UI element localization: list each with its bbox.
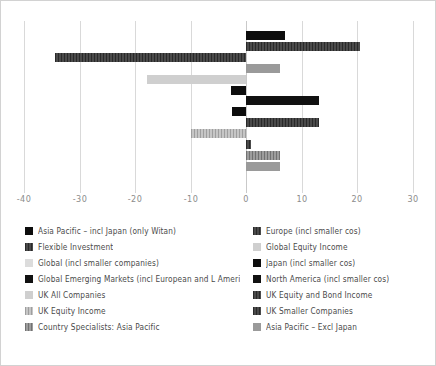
- legend-item-label: Asia Pacific – Excl Japan: [266, 322, 357, 332]
- legend-swatch-icon: [25, 227, 33, 235]
- bar: [246, 151, 279, 160]
- legend-item[interactable]: Global Equity Income: [253, 239, 436, 254]
- chart-legend: Asia Pacific – incl Japan (only Witan)Fl…: [1, 223, 436, 353]
- legend-swatch-icon: [25, 323, 33, 331]
- x-tick-label-10: 10: [282, 194, 322, 204]
- gridline--20: [135, 21, 136, 193]
- legend-item-label: UK Equity Income: [38, 306, 106, 316]
- gridline--10: [191, 21, 192, 193]
- legend-item[interactable]: Japan (incl smaller cos): [253, 255, 436, 270]
- legend-item[interactable]: North America (incl smaller cos): [253, 271, 436, 286]
- x-tick-label-0: 0: [226, 194, 266, 204]
- bar: [246, 118, 318, 127]
- x-tick-label-20: 20: [337, 194, 377, 204]
- bar: [246, 162, 279, 171]
- legend-swatch-icon: [25, 307, 33, 315]
- legend-item-label: Global (incl smaller companies): [38, 258, 159, 268]
- bar: [246, 64, 279, 73]
- legend-swatch-icon: [253, 323, 261, 331]
- legend-item[interactable]: Country Specialists: Asia Pacific: [25, 319, 240, 334]
- legend-item[interactable]: Global Emerging Markets (incl European a…: [25, 271, 240, 286]
- legend-item[interactable]: Asia Pacific – incl Japan (only Witan): [25, 223, 240, 238]
- legend-item[interactable]: Asia Pacific – Excl Japan: [253, 319, 436, 334]
- legend-swatch-icon: [25, 275, 33, 283]
- bar: [246, 31, 285, 40]
- legend-column-left: Asia Pacific – incl Japan (only Witan)Fl…: [25, 223, 240, 335]
- legend-swatch-icon: [25, 243, 33, 251]
- legend-swatch-icon: [253, 227, 261, 235]
- gridline-30: [413, 21, 414, 193]
- x-tick-label--10: -10: [171, 194, 211, 204]
- x-tick-label--30: -30: [60, 194, 100, 204]
- legend-item[interactable]: Europe (incl smaller cos): [253, 223, 436, 238]
- bar: [147, 75, 246, 84]
- x-tick-label--40: -40: [4, 194, 44, 204]
- legend-item-label: Europe (incl smaller cos): [266, 226, 361, 236]
- legend-swatch-icon: [253, 307, 261, 315]
- legend-item-label: Flexible Investment: [38, 242, 113, 252]
- legend-swatch-icon: [253, 291, 261, 299]
- bar: [55, 53, 247, 62]
- chart-card: -40-30-20-100102030 Asia Pacific – incl …: [0, 0, 436, 366]
- legend-item[interactable]: Flexible Investment: [25, 239, 240, 254]
- legend-item-label: Country Specialists: Asia Pacific: [38, 322, 160, 332]
- legend-item-label: UK All Companies: [38, 290, 106, 300]
- legend-swatch-icon: [25, 291, 33, 299]
- legend-column-right: Europe (incl smaller cos)Global Equity I…: [253, 223, 436, 335]
- gridline--40: [24, 21, 25, 193]
- legend-item-label: Asia Pacific – incl Japan (only Witan): [38, 226, 176, 236]
- gridline--30: [80, 21, 81, 193]
- legend-item-label: Japan (incl smaller cos): [266, 258, 355, 268]
- bar: [246, 140, 250, 149]
- legend-item[interactable]: UK Equity Income: [25, 303, 240, 318]
- bar: [231, 86, 247, 95]
- legend-item-label: UK Equity and Bond Income: [266, 290, 373, 300]
- legend-swatch-icon: [253, 275, 261, 283]
- legend-item-label: Global Equity Income: [266, 242, 348, 252]
- legend-swatch-icon: [25, 259, 33, 267]
- legend-item[interactable]: Global (incl smaller companies): [25, 255, 240, 270]
- legend-item-label: Global Emerging Markets (incl European a…: [38, 274, 240, 284]
- legend-swatch-icon: [253, 259, 261, 267]
- bar: [232, 107, 246, 116]
- bar: [191, 129, 247, 138]
- legend-item[interactable]: UK Smaller Companies: [253, 303, 436, 318]
- legend-item[interactable]: UK All Companies: [25, 287, 240, 302]
- bar-chart-plot-area: -40-30-20-100102030: [1, 1, 436, 213]
- bar: [246, 96, 318, 105]
- legend-item-label: UK Smaller Companies: [266, 306, 353, 316]
- x-tick-label-30: 30: [393, 194, 433, 204]
- bar: [246, 42, 360, 51]
- legend-swatch-icon: [253, 243, 261, 251]
- legend-item-label: North America (incl smaller cos): [266, 274, 389, 284]
- legend-item[interactable]: UK Equity and Bond Income: [253, 287, 436, 302]
- x-tick-label--20: -20: [115, 194, 155, 204]
